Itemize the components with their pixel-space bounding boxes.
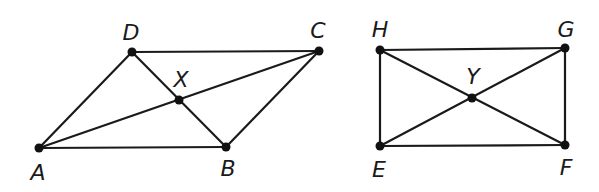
- segment-ef: [380, 145, 565, 146]
- segment-gh: [380, 48, 565, 50]
- label-a: A: [28, 160, 45, 185]
- label-h: H: [372, 17, 389, 42]
- label-y: Y: [466, 64, 481, 89]
- segment-cd: [132, 51, 319, 52]
- label-b: B: [220, 156, 235, 181]
- label-d: D: [123, 20, 140, 45]
- point-a: [35, 144, 44, 153]
- diagram-canvas: ABCDX EFGHY: [0, 0, 599, 192]
- rectangle-efgh: EFGHY: [372, 17, 575, 182]
- point-x: [175, 96, 184, 105]
- geometry-figure: ABCDX EFGHY: [0, 0, 599, 192]
- point-y: [468, 94, 477, 103]
- point-c: [315, 47, 324, 56]
- label-f: F: [560, 155, 573, 180]
- label-x: X: [172, 67, 189, 92]
- parallelogram-abcd: ABCDX: [28, 18, 326, 185]
- point-h: [376, 46, 385, 55]
- segment-ab: [39, 147, 226, 148]
- point-e: [376, 142, 385, 151]
- point-f: [561, 141, 570, 150]
- segment-bc: [226, 51, 319, 147]
- label-c: C: [310, 18, 326, 43]
- point-d: [128, 48, 137, 57]
- point-g: [561, 44, 570, 53]
- label-e: E: [372, 157, 386, 182]
- segment-da: [39, 52, 132, 148]
- point-b: [222, 143, 231, 152]
- label-g: G: [557, 17, 574, 42]
